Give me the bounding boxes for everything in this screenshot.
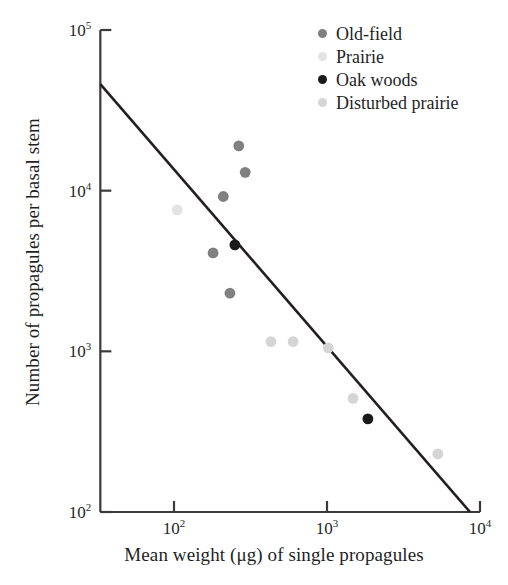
legend-item-oak-woods: Oak woods (318, 68, 498, 91)
legend-marker-icon (318, 52, 327, 61)
data-point (225, 288, 236, 299)
y-axis-title: Number of propagules per basal stem (22, 32, 44, 492)
x-tick-label: 104 (469, 520, 492, 537)
legend-item-disturbed-prairie: Disturbed prairie (318, 91, 498, 114)
legend-marker-icon (318, 98, 327, 107)
figure-root: 105104103102 102103104 Number of propagu… (0, 0, 508, 585)
trendline (100, 84, 470, 512)
regression-line (100, 84, 470, 512)
data-points-group (172, 140, 443, 459)
x-axis-title: Mean weight (μg) of single propagules (54, 544, 494, 566)
data-point (208, 247, 219, 258)
legend-label: Old-field (336, 25, 402, 43)
y-tick-label: 105 (69, 22, 92, 39)
y-tick-label: 103 (69, 343, 92, 360)
series-disturbed-prairie (266, 336, 444, 459)
legend-item-old-field: Old-field (318, 22, 498, 45)
legend-label: Prairie (336, 48, 384, 66)
data-point (348, 393, 359, 404)
data-point (229, 239, 240, 250)
data-point (362, 413, 373, 424)
legend-label: Disturbed prairie (336, 94, 458, 112)
x-tick-label: 102 (163, 520, 186, 537)
data-point (218, 191, 229, 202)
x-tick-label: 103 (316, 520, 339, 537)
data-point (266, 336, 277, 347)
series-old-field (208, 140, 251, 298)
y-tick-label: 102 (69, 504, 92, 521)
data-point (172, 204, 183, 215)
data-point (323, 343, 334, 354)
y-tick-label: 104 (69, 182, 92, 199)
data-point (432, 448, 443, 459)
series-prairie (172, 204, 183, 215)
legend-marker-icon (318, 29, 327, 38)
legend-marker-icon (318, 75, 327, 84)
legend-label: Oak woods (336, 71, 418, 89)
data-point (240, 167, 251, 178)
data-point (233, 140, 244, 151)
legend-item-prairie: Prairie (318, 45, 498, 68)
legend: Old-fieldPrairieOak woodsDisturbed prair… (318, 22, 498, 114)
data-point (288, 336, 299, 347)
